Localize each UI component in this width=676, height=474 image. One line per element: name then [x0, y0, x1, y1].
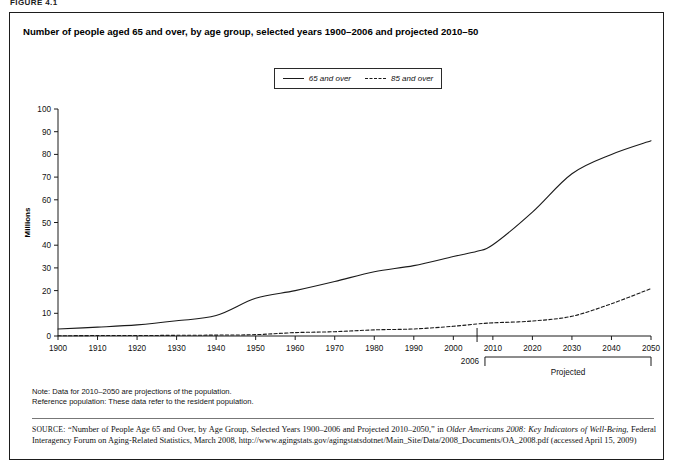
x-tick-label: 1920 — [128, 344, 147, 353]
x-tick-label: 2050 — [642, 344, 661, 353]
x-tick-label: 2030 — [563, 344, 582, 353]
y-axis-title: Millions — [23, 207, 32, 237]
source-kicker: SOURCE: — [32, 425, 65, 434]
marker-2006-label: 2006 — [461, 357, 480, 366]
x-tick-label: 1960 — [286, 344, 305, 353]
x-tick-label: 1910 — [88, 344, 107, 353]
source-text-1: “Number of People Age 65 and Over, by Ag… — [68, 425, 446, 434]
y-tick-label: 90 — [42, 128, 52, 137]
projected-bracket-label: Projected — [551, 368, 586, 377]
series-line-1 — [58, 141, 651, 329]
x-tick-label: 1970 — [326, 344, 345, 353]
y-tick-label: 30 — [42, 264, 52, 273]
series-line-2 — [58, 289, 651, 336]
x-tick-label: 2010 — [484, 344, 503, 353]
source-divider — [32, 418, 654, 419]
x-tick-label: 1950 — [247, 344, 266, 353]
x-tick-label: 1900 — [49, 344, 68, 353]
figure-border: Number of people aged 65 and over, by ag… — [9, 12, 664, 460]
y-tick-label: 20 — [42, 287, 52, 296]
y-tick-label: 50 — [42, 219, 52, 228]
y-tick-label: 10 — [42, 309, 52, 318]
figure-page: FIGURE 4.1 Number of people aged 65 and … — [0, 0, 676, 474]
x-tick-label: 2000 — [444, 344, 463, 353]
projected-bracket — [485, 357, 651, 366]
y-tick-label: 100 — [37, 105, 51, 114]
note-line-2: Reference population: These data refer t… — [32, 397, 552, 407]
source-italic-title: Older Americans 2008: Key Indicators of … — [446, 425, 626, 434]
y-tick-label: 70 — [42, 173, 52, 182]
figure-source: SOURCE: “Number of People Age 65 and Ove… — [32, 424, 656, 446]
figure-label: FIGURE 4.1 — [10, 0, 58, 7]
x-tick-label: 2020 — [523, 344, 542, 353]
x-tick-label: 1990 — [405, 344, 424, 353]
y-tick-label: 60 — [42, 196, 52, 205]
x-tick-label: 1930 — [167, 344, 186, 353]
x-tick-label: 1940 — [207, 344, 226, 353]
figure-notes: Note: Data for 2010–2050 are projections… — [32, 387, 552, 407]
y-tick-label: 80 — [42, 150, 52, 159]
y-tick-label: 0 — [46, 332, 51, 341]
note-line-1: Note: Data for 2010–2050 are projections… — [32, 387, 552, 397]
y-tick-label: 40 — [42, 241, 52, 250]
x-tick-label: 2040 — [602, 344, 621, 353]
x-tick-label: 1980 — [365, 344, 384, 353]
